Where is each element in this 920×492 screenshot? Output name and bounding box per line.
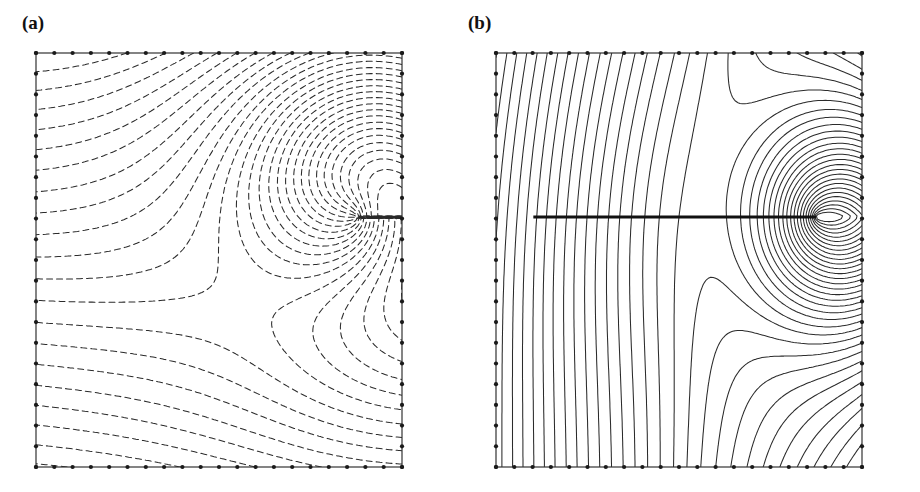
mesh-node-group	[494, 51, 864, 469]
mesh-node	[494, 217, 498, 221]
mesh-node	[400, 424, 404, 428]
mesh-node	[162, 465, 166, 469]
mesh-node-group	[34, 51, 404, 469]
mesh-node	[860, 113, 864, 117]
contour-line	[812, 201, 862, 233]
contour-line	[36, 61, 402, 302]
mesh-node	[125, 465, 129, 469]
mesh-node	[199, 51, 203, 55]
mesh-node	[659, 51, 663, 55]
contour-line	[378, 183, 402, 216]
contour-line	[674, 53, 708, 467]
mesh-node	[549, 51, 553, 55]
contour-line	[36, 53, 255, 170]
mesh-node	[89, 465, 93, 469]
mesh-node	[363, 51, 367, 55]
contour-line	[332, 135, 402, 216]
mesh-node	[512, 465, 516, 469]
mesh-node	[787, 51, 791, 55]
mesh-node	[860, 279, 864, 283]
mesh-node	[199, 465, 203, 469]
mesh-node	[714, 465, 718, 469]
panel-a-plot	[0, 0, 460, 492]
contour-line	[728, 53, 862, 104]
mesh-node	[531, 465, 535, 469]
mesh-node	[400, 341, 404, 345]
mesh-node	[272, 465, 276, 469]
contour-line	[313, 218, 402, 395]
mesh-node	[860, 196, 864, 200]
mesh-node	[34, 382, 38, 386]
mesh-node	[107, 51, 111, 55]
contour-line	[763, 371, 862, 467]
mesh-node	[345, 465, 349, 469]
contour-line	[797, 395, 862, 467]
mesh-node	[860, 341, 864, 345]
mesh-node	[34, 237, 38, 241]
mesh-node	[604, 465, 608, 469]
mesh-node	[400, 196, 404, 200]
mesh-node	[549, 465, 553, 469]
mesh-node	[382, 51, 386, 55]
mesh-node	[400, 403, 404, 407]
panel-a: (a)	[0, 0, 460, 492]
mesh-node	[217, 51, 221, 55]
mesh-node	[732, 465, 736, 469]
mesh-node	[345, 51, 349, 55]
contour-line	[817, 212, 843, 221]
mesh-node	[494, 92, 498, 96]
panel-b-plot	[460, 0, 920, 492]
mesh-node	[768, 465, 772, 469]
mesh-node	[531, 51, 535, 55]
mesh-node	[400, 134, 404, 138]
contour-line	[811, 197, 863, 238]
mesh-node	[494, 113, 498, 117]
mesh-node	[400, 237, 404, 241]
mesh-node	[805, 51, 809, 55]
mesh-node	[400, 113, 404, 117]
mesh-node	[750, 465, 754, 469]
mesh-node	[823, 465, 827, 469]
panel-b-field	[496, 53, 862, 467]
mesh-node	[34, 217, 38, 221]
mesh-node	[254, 51, 258, 55]
mesh-node	[400, 320, 404, 324]
mesh-node	[585, 465, 589, 469]
mesh-node	[494, 382, 498, 386]
mesh-node	[567, 51, 571, 55]
contour-line	[36, 53, 166, 91]
mesh-node	[52, 465, 56, 469]
mesh-node	[860, 299, 864, 303]
contour-line	[272, 218, 402, 410]
panel-a-field	[36, 53, 402, 467]
mesh-node	[860, 258, 864, 262]
mesh-node	[677, 51, 681, 55]
mesh-node	[494, 341, 498, 345]
mesh-node	[768, 51, 772, 55]
mesh-node	[363, 465, 367, 469]
mesh-node	[272, 51, 276, 55]
mesh-node	[494, 196, 498, 200]
contour-line	[36, 405, 321, 467]
mesh-node	[34, 113, 38, 117]
contour-line	[301, 110, 402, 222]
mesh-node	[89, 51, 93, 55]
contour-line	[259, 80, 402, 255]
mesh-node	[512, 51, 516, 55]
mesh-node	[400, 154, 404, 158]
mesh-node	[494, 444, 498, 448]
contour-line	[364, 219, 402, 362]
mesh-node	[860, 154, 864, 158]
mesh-node	[400, 382, 404, 386]
mesh-node	[235, 465, 239, 469]
mesh-node	[860, 320, 864, 324]
contour-family-solid	[496, 53, 862, 467]
mesh-node	[34, 175, 38, 179]
mesh-node	[585, 51, 589, 55]
mesh-node	[34, 154, 38, 158]
mesh-node	[860, 382, 864, 386]
mesh-node	[34, 258, 38, 262]
mesh-node	[327, 51, 331, 55]
mesh-node	[494, 279, 498, 283]
mesh-node	[180, 51, 184, 55]
